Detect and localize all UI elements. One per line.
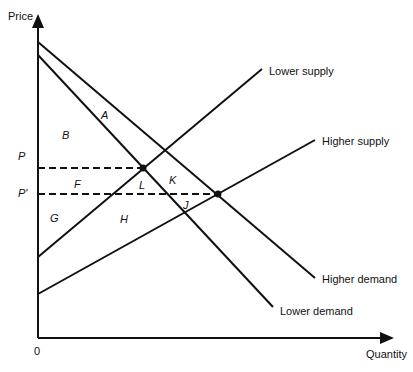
price-p-label: P [18,150,26,162]
region-f-label: F [74,178,82,190]
origin-label: 0 [34,345,40,357]
x-axis-label: Quantity [366,348,407,360]
lower-supply-curve [38,69,262,257]
region-l-label: L [139,179,145,191]
equilibrium-point-p [140,165,147,172]
price-p-prime-label: P' [18,187,28,199]
higher-supply-curve [38,140,315,294]
region-a-label: A [100,109,108,121]
y-axis-label: Price [8,10,33,22]
region-h-label: H [120,213,128,225]
lower-demand-label: Lower demand [280,305,353,317]
region-j-label: J [182,199,189,211]
supply-demand-diagram: Price Quantity 0 P P' Lower supply Highe… [0,0,413,372]
lower-supply-label: Lower supply [269,65,334,77]
equilibrium-point-p-prime [215,191,222,198]
higher-demand-curve [38,42,315,278]
region-g-label: G [50,212,59,224]
higher-demand-label: Higher demand [322,273,397,285]
region-b-label: B [62,129,69,141]
higher-supply-label: Higher supply [322,135,390,147]
region-k-label: K [169,174,177,186]
